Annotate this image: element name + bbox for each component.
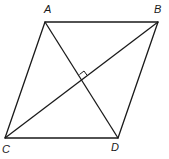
right-angle-marker — [80, 71, 88, 75]
diagonal-bc — [5, 22, 158, 138]
vertex-label-d: D — [111, 141, 119, 153]
vertex-label-b: B — [154, 3, 161, 15]
side-ca — [5, 22, 45, 138]
vertex-label-c: C — [2, 143, 10, 155]
side-bd — [118, 22, 158, 138]
vertex-label-a: A — [43, 3, 51, 15]
rhombus-diagram: A B C D — [0, 0, 169, 159]
